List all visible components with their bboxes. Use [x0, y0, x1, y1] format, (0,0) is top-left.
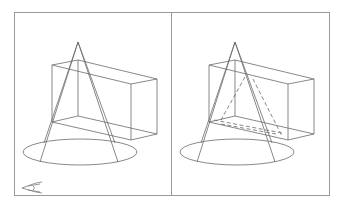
- ucs-icon: [22, 182, 42, 193]
- right-panel: [180, 42, 314, 165]
- diagram-svg: [0, 0, 343, 207]
- diagram-canvas: [0, 0, 343, 207]
- left-panel: [22, 42, 157, 193]
- hidden-lines: [214, 77, 282, 136]
